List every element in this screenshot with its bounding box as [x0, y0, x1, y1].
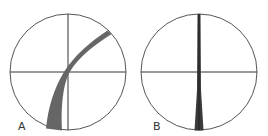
panel-b — [141, 14, 257, 131]
curved-band-a — [46, 31, 112, 131]
figure-canvas — [0, 0, 268, 136]
panel-label-a: A — [18, 121, 26, 132]
panel-a — [10, 14, 126, 131]
panel-label-b: B — [153, 121, 161, 132]
